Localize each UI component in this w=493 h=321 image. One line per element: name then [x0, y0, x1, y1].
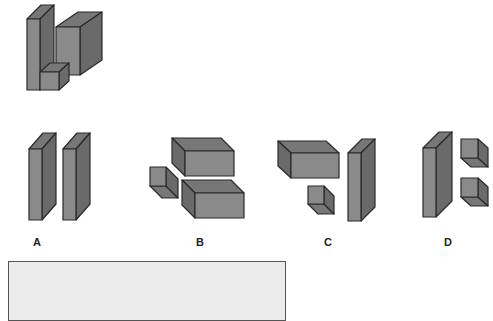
option-b-figure[interactable] — [150, 138, 244, 218]
answer-box[interactable] — [8, 261, 286, 321]
option-d-figure[interactable] — [423, 132, 488, 217]
cuboid-block — [461, 178, 488, 206]
cuboid-block — [423, 132, 452, 217]
cuboid-block — [461, 139, 488, 167]
cuboid-block — [278, 141, 339, 178]
cuboid-block — [308, 186, 334, 214]
question-figure — [27, 5, 102, 90]
cuboid-block — [348, 139, 375, 221]
option-b-label[interactable]: B — [190, 236, 210, 248]
cuboid-block — [150, 167, 178, 198]
option-a-figure[interactable] — [29, 133, 90, 220]
option-a-label[interactable]: A — [27, 236, 47, 248]
option-figures — [29, 132, 488, 221]
cuboid-block — [182, 180, 244, 218]
option-d-label[interactable]: D — [438, 236, 458, 248]
cuboid-block — [172, 138, 234, 176]
option-c-figure[interactable] — [278, 139, 375, 221]
cuboid-block — [29, 133, 56, 220]
cuboid-block — [63, 133, 90, 220]
option-c-label[interactable]: C — [318, 236, 338, 248]
